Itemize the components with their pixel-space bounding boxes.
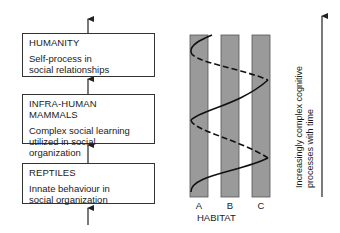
stage-description: Innate behaviour in social organization [29,183,148,205]
description-line: social relationships [29,64,148,75]
description-line: social organization [29,194,148,205]
stage-title: INFRA-HUMAN MAMMALS [29,98,148,120]
habitat-label-a: A [190,200,208,211]
description-line: utilized in social [29,136,148,147]
description-line: Complex social learning [29,125,148,136]
stage-box-infra-human-mammals: INFRA-HUMAN MAMMALS Complex social learn… [22,94,155,144]
description-line: Self-process in [29,53,148,64]
habitat-axis-title: HABITAT [197,212,236,223]
habitat-label-c: C [252,200,270,211]
stage-box-humanity: HUMANITY Self-process in social relation… [22,33,155,77]
stage-title: REPTILES [29,167,148,178]
habitat-label-b: B [221,200,239,211]
description-line: Innate behaviour in [29,183,148,194]
stage-description: Complex social learning utilized in soci… [29,125,148,158]
time-axis-label: Increasingly complex cognitive processes… [294,66,316,188]
description-line: organization [29,147,148,158]
time-axis-label-line: Increasingly complex cognitive [294,66,305,188]
habitat-bar-c [252,35,270,197]
time-axis-label-line: processes with time [305,66,316,188]
stage-box-reptiles: REPTILES Innate behaviour in social orga… [22,163,155,204]
stage-description: Self-process in social relationships [29,53,148,75]
stage-title: HUMANITY [29,37,148,48]
